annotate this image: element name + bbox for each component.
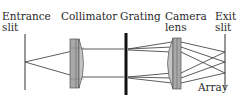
focused-rays — [181, 42, 225, 83]
camera-lens — [168, 38, 182, 89]
collimated-beams — [82, 49, 124, 77]
diverging-rays — [25, 50, 77, 77]
spectrometer-diagram — [0, 0, 244, 98]
diffracted-rays — [128, 42, 172, 83]
collimator-lens — [70, 39, 84, 88]
